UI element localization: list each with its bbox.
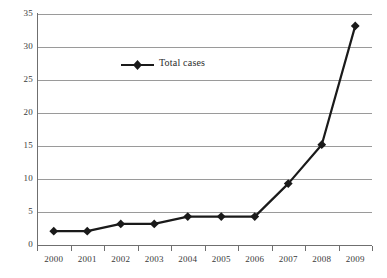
data-point-marker (183, 212, 192, 221)
series-layer (0, 0, 387, 278)
chart-legend: Total cases (121, 56, 205, 70)
legend-marker-icon (121, 57, 154, 69)
data-point-marker (217, 212, 226, 221)
data-point-marker (116, 219, 125, 228)
data-point-marker (49, 227, 58, 236)
legend-entry-label: Total cases (159, 57, 205, 69)
line-chart: 05101520253035 2000200120022003200420052… (0, 0, 387, 278)
data-point-marker (83, 227, 92, 236)
data-point-marker (351, 21, 360, 30)
data-point-marker (150, 219, 159, 228)
